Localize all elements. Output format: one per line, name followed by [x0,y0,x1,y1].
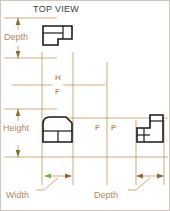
front-view-object [43,117,72,142]
dimension-label-depth-left: Depth [4,33,28,42]
dimension-label-width-bottom: Width [6,191,29,200]
plane-label-frontal-upper: F [55,88,60,96]
plane-label-horizontal: H [55,74,61,82]
dimension-label-height-left: Height [3,124,29,133]
plane-label-profile: P [111,124,116,132]
plane-label-frontal-lower: F [95,124,100,132]
page-title: TOP VIEW [33,5,79,14]
technical-drawing-canvas: TOP VIEW Depth Height Width Depth H F F … [0,0,170,211]
dimension-label-depth-bottom: Depth [94,191,118,200]
